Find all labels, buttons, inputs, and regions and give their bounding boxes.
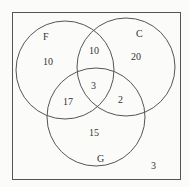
circle-g: [47, 68, 145, 166]
venn-diagram: F C G 10 20 15 10 17 2 3 3: [0, 0, 189, 187]
region-f-g: 17: [63, 96, 73, 107]
region-f-c-g: 3: [91, 80, 96, 91]
set-label-c: C: [136, 28, 143, 39]
set-label-g: G: [97, 153, 104, 164]
region-f-c: 10: [89, 45, 99, 56]
region-g-only: 15: [89, 127, 99, 138]
region-c-g: 2: [118, 94, 123, 105]
set-label-f: F: [43, 31, 49, 42]
region-outside: 3: [151, 160, 156, 171]
region-f-only: 10: [43, 56, 53, 67]
circle-c: [77, 18, 175, 116]
region-c-only: 20: [131, 51, 141, 62]
